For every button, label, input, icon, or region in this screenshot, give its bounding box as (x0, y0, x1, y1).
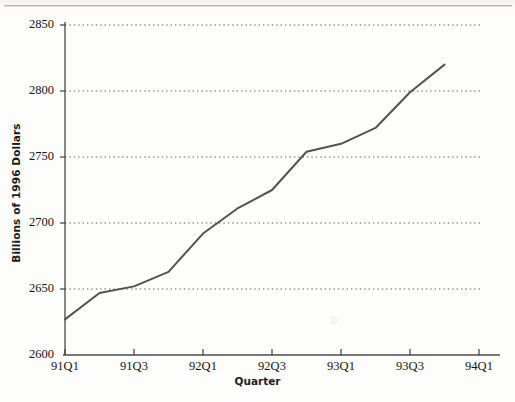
x-tick-label-93Q3: 93Q3 (380, 359, 440, 374)
chart-plot-svg (0, 0, 515, 402)
y-tick-marks (60, 25, 65, 289)
x-tick-label-92Q1: 92Q1 (173, 359, 233, 374)
y-axis-title: Billions of 1996 Dollars (6, 118, 26, 268)
x-tick-label-91Q1: 91Q1 (35, 359, 95, 374)
x-tick-label-93Q1: 93Q1 (311, 359, 371, 374)
data-series-line (65, 65, 445, 320)
grid-lines (65, 25, 483, 289)
x-tick-label-94Q1: 94Q1 (449, 359, 509, 374)
x-tick-marks (65, 349, 479, 355)
y-tick-label-2800: 2800 (8, 83, 54, 98)
x-axis-title: Quarter (0, 375, 515, 387)
chart-figure: 2850 2800 2750 2700 2650 2600 91Q1 91Q3 … (0, 0, 515, 402)
y-tick-label-2850: 2850 (8, 17, 54, 32)
y-axis-title-text: Billions of 1996 Dollars (10, 123, 22, 262)
x-tick-label-92Q3: 92Q3 (242, 359, 302, 374)
x-tick-label-91Q3: 91Q3 (104, 359, 164, 374)
y-tick-label-2650: 2650 (8, 281, 54, 296)
